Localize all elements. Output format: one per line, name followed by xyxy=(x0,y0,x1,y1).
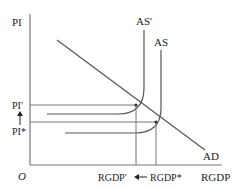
ad-as-diagram: PI RGDP O AS' AS AD PI' PI* RGDP' RGDP* xyxy=(0,0,237,189)
as-shifted-label: AS' xyxy=(136,15,152,27)
equilibrium-new-point xyxy=(134,103,137,106)
origin-label: O xyxy=(18,170,26,182)
arrow-left-icon xyxy=(134,174,147,180)
as-shifted-curve xyxy=(47,30,144,114)
price-level-new-label: PI' xyxy=(12,100,23,111)
as-label: AS xyxy=(154,36,168,48)
as-curve xyxy=(65,50,161,133)
output-initial-label: RGDP* xyxy=(150,172,182,183)
arrow-up-icon xyxy=(17,111,23,125)
x-axis-label: RGDP xyxy=(201,171,230,183)
equilibrium-initial-point xyxy=(154,120,157,123)
ad-label: AD xyxy=(203,150,219,162)
output-new-label: RGDP' xyxy=(98,172,127,183)
y-axis-label: PI xyxy=(12,16,22,28)
price-level-initial-label: PI* xyxy=(12,126,26,137)
